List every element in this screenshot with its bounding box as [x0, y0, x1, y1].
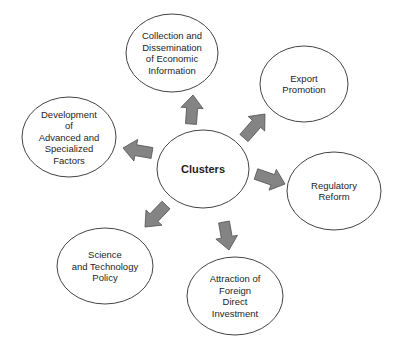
node-science-label: Policy — [92, 272, 118, 283]
arrow-to-regulatory-icon — [254, 169, 285, 190]
node-fdi: Attraction ofForeignDirectInvestment — [187, 257, 283, 335]
cluster-policy-diagram: Collection andDisseminationof EconomicIn… — [0, 0, 402, 349]
arrow-to-info-icon — [181, 95, 203, 124]
node-fdi-label: Foreign — [219, 285, 251, 296]
node-fdi-label: Attraction of — [210, 273, 261, 284]
node-info-label: Information — [148, 65, 196, 76]
node-info-label: Dissemination — [142, 42, 202, 53]
node-fdi-label: Investment — [212, 308, 259, 319]
node-factors: DevelopmentofAdvanced andSpecializedFact… — [22, 97, 116, 177]
node-export-label: Export — [290, 73, 318, 84]
node-factors-label: Factors — [53, 155, 85, 166]
node-info: Collection andDisseminationof EconomicIn… — [126, 14, 218, 92]
node-regulatory: RegulatoryReform — [287, 152, 381, 230]
node-science: Scienceand TechnologyPolicy — [57, 228, 153, 304]
node-info-label: Collection and — [142, 30, 202, 41]
node-factors-label: Specialized — [45, 143, 94, 154]
node-regulatory-label: Regulatory — [311, 180, 357, 191]
node-clusters-label: Clusters — [181, 163, 225, 175]
node-factors-label: of — [65, 120, 73, 131]
arrow-to-science-icon — [145, 201, 170, 227]
node-fdi-label: Direct — [223, 296, 248, 307]
node-export-label: Promotion — [282, 84, 325, 95]
node-clusters: Clusters — [157, 130, 249, 208]
node-science-label: Science — [88, 249, 122, 260]
arrow-to-export-icon — [240, 114, 265, 142]
node-factors-label: Advanced and — [39, 132, 100, 143]
node-export: ExportPromotion — [260, 46, 348, 122]
node-info-label: of Economic — [146, 53, 199, 64]
node-factors-label: Development — [41, 109, 97, 120]
arrow-to-factors-icon — [123, 139, 153, 161]
arrow-to-fdi-icon — [216, 221, 238, 250]
node-science-label: and Technology — [72, 261, 139, 272]
node-regulatory-label: Reform — [318, 191, 349, 202]
